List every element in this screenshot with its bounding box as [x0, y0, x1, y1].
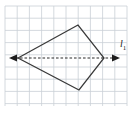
arrow-head-left-icon [9, 54, 17, 61]
symmetry-line-group [9, 54, 120, 61]
geometry-figure: l1 [0, 0, 136, 115]
figure-canvas [0, 0, 136, 115]
symmetry-line-label: l1 [120, 39, 126, 52]
symmetry-line-label-subscript: 1 [123, 44, 127, 52]
arrow-head-right-icon [112, 54, 120, 61]
grid-background [5, 6, 127, 106]
